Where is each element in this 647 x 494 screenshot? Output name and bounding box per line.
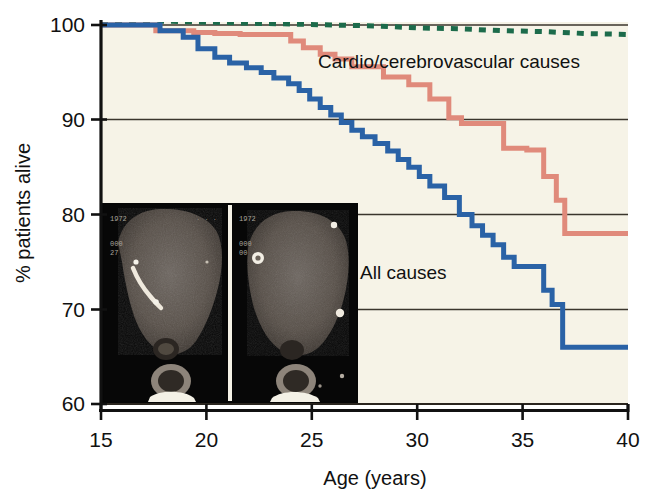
ct-left-speck-3 — [205, 260, 208, 263]
y-tick-label-60: 60 — [62, 392, 85, 415]
x-tick-label-40: 40 — [616, 428, 639, 451]
ct-scan-insets: 1972 000 27 . . . — [101, 203, 358, 403]
ct-right-overlay-line2: 000 — [239, 240, 252, 248]
ct-right-nodule-1-core — [255, 255, 260, 260]
ct-left-overlay-corner: . . . — [196, 214, 217, 222]
ct-left-overlay-line2: 000 — [110, 240, 123, 248]
ct-right-nodule-3 — [336, 309, 344, 317]
ct-right-overlay-year: 1972 — [239, 215, 256, 223]
y-axis-title: % patients alive — [12, 143, 34, 283]
y-tick-label-70: 70 — [62, 298, 85, 321]
x-tick-label-15: 15 — [89, 428, 112, 451]
x-tick-label-30: 30 — [406, 428, 429, 451]
ct-left-vertebra-inner — [158, 343, 174, 355]
ct-right-vertebra-upper — [280, 340, 304, 360]
y-tick-label-100: 100 — [50, 13, 85, 36]
ct-right-nodule-2 — [331, 222, 337, 228]
annotation-cardio-causes: Cardio/cerebrovascular causes — [318, 51, 580, 72]
ct-right-speck-1 — [340, 374, 344, 378]
chart-svg: 1972 000 27 . . . — [0, 0, 647, 494]
kaplan-meier-survival-chart: 1972 000 27 . . . — [0, 0, 647, 494]
x-tick-label-20: 20 — [195, 428, 218, 451]
ct-scan-left: 1972 000 27 . . . — [104, 205, 226, 402]
ct-right-spinal-canal — [283, 370, 309, 392]
annotation-all-causes: All causes — [360, 262, 447, 283]
ct-right-overlay-line3: 00 — [239, 249, 247, 257]
ct-left-spinal-canal — [158, 370, 184, 392]
inset-divider — [228, 205, 232, 401]
ct-left-speck-2 — [153, 299, 159, 305]
y-tick-label-80: 80 — [62, 203, 85, 226]
ct-left-overlay-year: 1972 — [110, 215, 127, 223]
x-axis-title: Age (years) — [323, 467, 426, 489]
ct-right-speck-2 — [318, 384, 321, 387]
x-tick-label-35: 35 — [511, 428, 534, 451]
ct-left-overlay-line3: 27 — [110, 249, 118, 257]
y-tick-label-90: 90 — [62, 108, 85, 131]
x-tick-label-25: 25 — [300, 428, 323, 451]
ct-left-speck-1 — [133, 259, 138, 264]
ct-scan-right: 1972 000 00 — [233, 205, 356, 402]
